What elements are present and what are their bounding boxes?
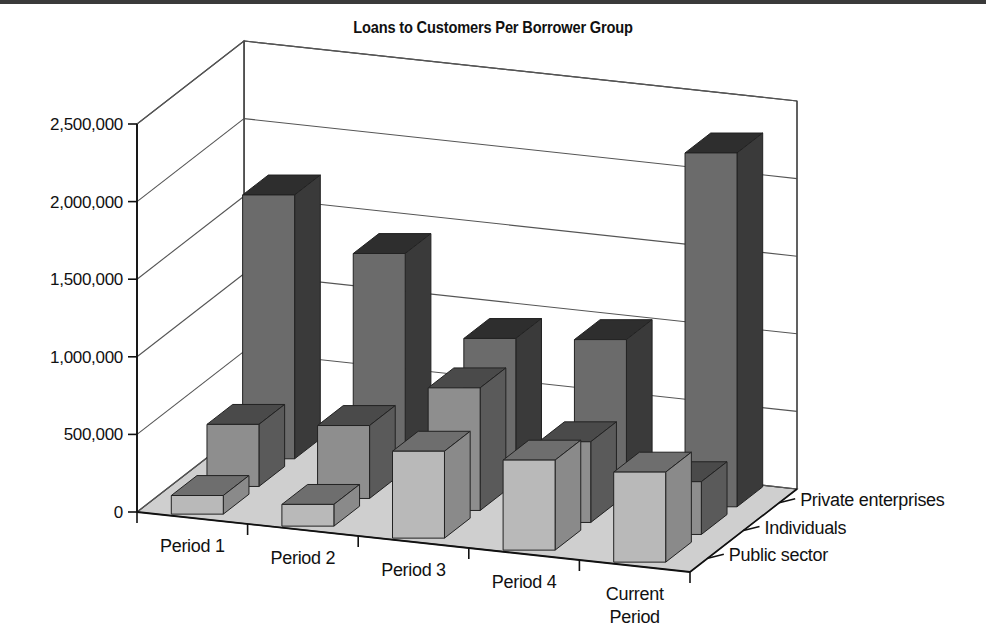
x-axis-category-label: Period 2 xyxy=(271,548,336,568)
bar-side-face xyxy=(737,133,763,507)
depth-axis-label-individuals: Individuals xyxy=(765,518,847,538)
bar-front-face xyxy=(503,460,555,550)
bar-front-face xyxy=(614,472,666,562)
y-axis-tick-label: 2,500,000 xyxy=(50,115,123,134)
x-axis-category-label: Period 3 xyxy=(381,560,446,580)
bar-front-face xyxy=(393,451,445,538)
bar-public-sector-period-4[interactable] xyxy=(503,440,581,550)
depth-axis-label-private-enterprises: Private enterprises xyxy=(800,490,945,510)
bar-private-enterprises-current-period[interactable] xyxy=(685,133,763,507)
bar-public-sector-current-period[interactable] xyxy=(614,452,692,562)
bar-side-face xyxy=(480,368,506,511)
x-axis-category-label: CurrentPeriod xyxy=(606,584,664,627)
bar-side-face xyxy=(666,452,692,562)
x-axis-category-label: Period 4 xyxy=(492,572,557,592)
y-axis-tick-label: 1,500,000 xyxy=(50,270,123,289)
y-axis-tick-label: 1,000,000 xyxy=(50,348,123,367)
y-axis-tick-label: 500,000 xyxy=(64,425,123,444)
bar-individuals-period-1[interactable] xyxy=(207,404,285,486)
bar-public-sector-period-3[interactable] xyxy=(393,431,471,538)
x-axis-category-label: Period 1 xyxy=(160,536,225,556)
bar-front-face xyxy=(685,153,737,507)
bar-side-face xyxy=(295,175,321,459)
y-axis-tick-label: 2,000,000 xyxy=(50,193,123,212)
bar-chart-3d: 0500,0001,000,0001,500,0002,000,0002,500… xyxy=(0,0,986,643)
y-axis-tick-label: 0 xyxy=(114,503,123,522)
depth-axis-label-public-sector: Public sector xyxy=(729,545,828,565)
chart-figure: Loans to Customers Per Borrower Group 05… xyxy=(0,0,986,643)
bar-front-face xyxy=(171,496,223,515)
bar-front-face xyxy=(282,504,334,526)
bar-side-face xyxy=(555,440,581,550)
